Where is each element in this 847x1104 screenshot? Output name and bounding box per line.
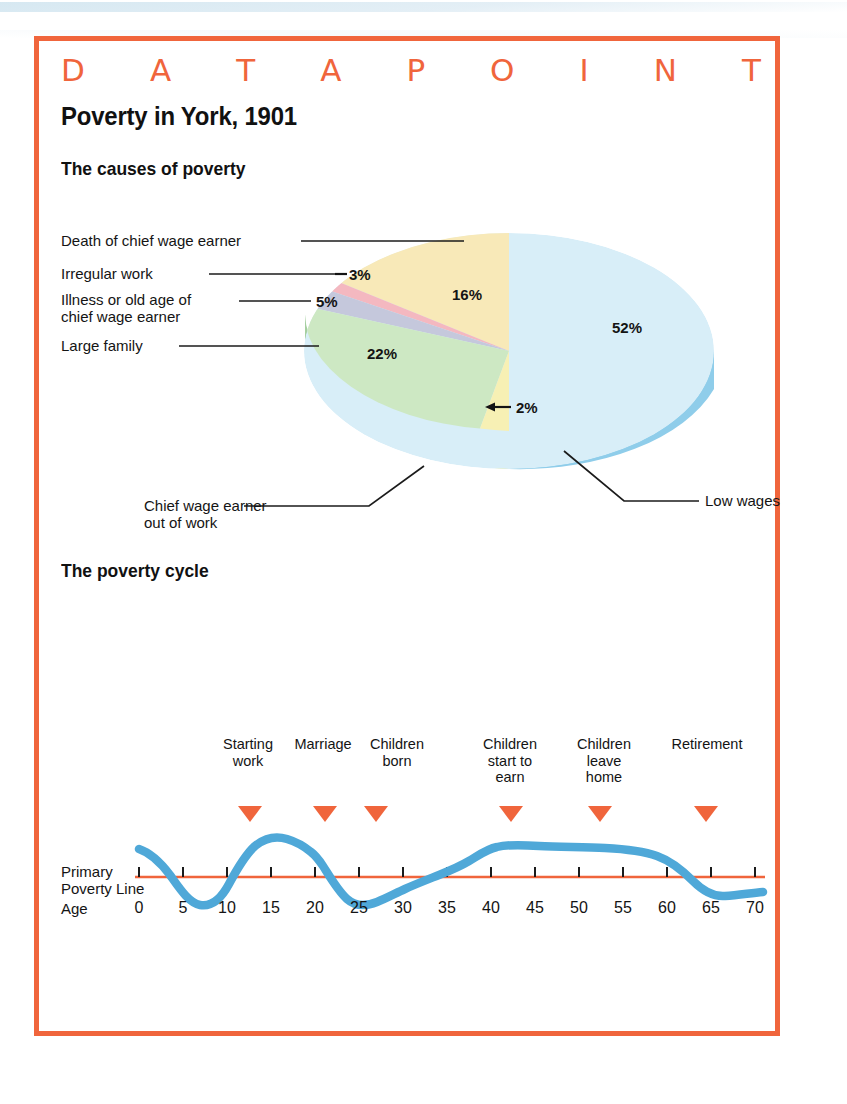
tick-60: 60 xyxy=(652,899,682,917)
pie-label-death: Death of chief wage earner xyxy=(61,233,241,249)
kicker-letter-a1: A xyxy=(150,55,171,86)
pie-value-irregular: 3% xyxy=(349,266,371,283)
event-label-children-leave-home: Children leave home xyxy=(569,736,639,786)
event-label-children-start-to-earn: Children start to earn xyxy=(473,736,547,786)
tick-25: 25 xyxy=(344,899,374,917)
poverty-cycle-chart: Starting work Marriage Children born Chi… xyxy=(39,641,775,961)
leader-out-of-work xyxy=(244,466,424,506)
kicker-datapoint: D A T A P O I N T xyxy=(61,55,761,86)
pie-chart: 16% 3% 5% 22% 2% 52% Death of chief wage… xyxy=(39,201,775,551)
event-markers xyxy=(238,806,718,822)
marker-starting-work xyxy=(238,806,262,822)
event-label-starting-work: Starting work xyxy=(212,736,284,769)
event-label-children-born: Children born xyxy=(361,736,433,769)
pie-heading: The causes of poverty xyxy=(61,158,246,180)
tick-30: 30 xyxy=(388,899,418,917)
event-label-retirement: Retirement xyxy=(659,736,755,753)
tick-35: 35 xyxy=(432,899,462,917)
pie-label-out-of-work-line2: out of work xyxy=(144,515,217,531)
pie-label-illness-line2: chief wage earner xyxy=(61,309,180,325)
tick-15: 15 xyxy=(256,899,286,917)
pie-label-out-of-work-line1: Chief wage earner xyxy=(144,498,267,514)
pie-label-low-wages: Low wages xyxy=(705,493,780,509)
axis-label-age: Age xyxy=(61,900,88,917)
datapoint-card: D A T A P O I N T Poverty in York, 1901 … xyxy=(34,36,780,1036)
tick-50: 50 xyxy=(564,899,594,917)
scan-artifact-band-top xyxy=(0,2,847,12)
pie-value-illness: 5% xyxy=(316,293,338,310)
kicker-letter-a2: A xyxy=(320,55,341,86)
axis-label-poverty-line: Poverty Line xyxy=(61,880,144,897)
page-title: Poverty in York, 1901 xyxy=(61,101,297,132)
kicker-letter-t1: T xyxy=(236,55,255,86)
income-curve xyxy=(139,837,763,905)
pie-label-illness-line1: Illness or old age of xyxy=(61,292,191,308)
pie-value-out-of-work: 2% xyxy=(516,399,538,416)
tick-55: 55 xyxy=(608,899,638,917)
tick-20: 20 xyxy=(300,899,330,917)
tick-0: 0 xyxy=(124,899,154,917)
tick-5: 5 xyxy=(168,899,198,917)
pie-value-low-wages: 52% xyxy=(612,319,642,336)
cycle-heading: The poverty cycle xyxy=(61,560,209,582)
kicker-letter-d1: D xyxy=(61,55,85,86)
event-label-marriage: Marriage xyxy=(285,736,361,753)
axis-label-primary: Primary xyxy=(61,863,113,880)
pie-value-large-family: 22% xyxy=(367,345,397,362)
tick-40: 40 xyxy=(476,899,506,917)
kicker-letter-o: O xyxy=(490,55,514,86)
kicker-letter-p: P xyxy=(406,55,425,86)
kicker-letter-i: I xyxy=(580,55,589,86)
marker-children-start-to-earn xyxy=(499,806,523,822)
marker-marriage xyxy=(313,806,337,822)
marker-children-born xyxy=(364,806,388,822)
pie-label-large-family: Large family xyxy=(61,338,143,354)
marker-retirement xyxy=(694,806,718,822)
tick-70: 70 xyxy=(740,899,770,917)
tick-65: 65 xyxy=(696,899,726,917)
kicker-letter-t2: T xyxy=(742,55,761,86)
pie-value-death: 16% xyxy=(452,286,482,303)
tick-10: 10 xyxy=(212,899,242,917)
tick-45: 45 xyxy=(520,899,550,917)
marker-children-leave-home xyxy=(588,806,612,822)
kicker-letter-n: N xyxy=(654,55,677,86)
pie-label-irregular-work: Irregular work xyxy=(61,266,153,282)
